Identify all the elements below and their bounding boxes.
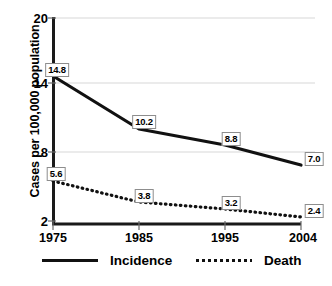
data-label-death-2004: 2.4 bbox=[305, 204, 324, 218]
data-label-death-1985: 3.8 bbox=[135, 189, 154, 203]
x-tick-1975: 1975 bbox=[39, 232, 67, 245]
legend-label-incidence: Incidence bbox=[110, 253, 172, 268]
legend-entry-death: Death bbox=[196, 248, 302, 272]
x-tick-2004: 2004 bbox=[289, 232, 317, 245]
data-label-incidence-1985: 10.2 bbox=[132, 115, 156, 129]
series-line-death bbox=[53, 181, 301, 217]
data-label-death-1995: 3.2 bbox=[222, 196, 241, 210]
data-label-incidence-1995: 8.8 bbox=[222, 132, 241, 146]
data-label-incidence-2004: 7.0 bbox=[305, 152, 324, 166]
gridlines bbox=[53, 18, 315, 152]
line-chart: Cases per 100,000 population 20 14 8 2 bbox=[0, 0, 332, 286]
chart-legend: Incidence Death bbox=[0, 248, 332, 278]
data-label-death-1975: 5.6 bbox=[47, 167, 66, 181]
legend-entry-incidence: Incidence bbox=[42, 248, 172, 272]
legend-line-solid-icon bbox=[42, 254, 98, 266]
x-tick-1985: 1985 bbox=[125, 232, 153, 245]
data-label-incidence-1975: 14.8 bbox=[45, 63, 69, 77]
legend-line-dotted-icon bbox=[196, 254, 252, 266]
x-tick-1995: 1995 bbox=[211, 232, 239, 245]
legend-label-death: Death bbox=[264, 253, 302, 268]
